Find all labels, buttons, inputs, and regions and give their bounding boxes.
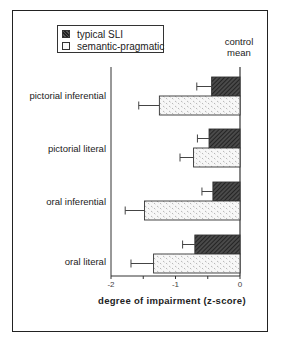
bar-semantic-pragmatic [145, 201, 240, 220]
x-tick-label: -2 [101, 280, 121, 289]
bar-typical-sli [213, 182, 240, 201]
bar-typical-sli [195, 235, 240, 254]
bar-typical-sli [212, 77, 240, 96]
x-tick-label: 0 [230, 280, 250, 289]
bar-semantic-pragmatic [154, 254, 240, 273]
x-tick-label: -1 [166, 280, 186, 289]
bar-semantic-pragmatic [159, 96, 240, 115]
x-axis-label: degree of impairment (z-score) [82, 295, 262, 306]
bar-semantic-pragmatic [194, 148, 240, 167]
bars [125, 77, 240, 273]
chart-figure: typical SLI semantic-pragmatic control m… [0, 0, 285, 349]
bar-typical-sli [209, 129, 240, 148]
